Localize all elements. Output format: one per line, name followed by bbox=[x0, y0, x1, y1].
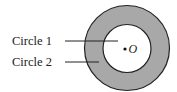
concentric-circles-diagram: Circle 1 Circle 2 O bbox=[0, 0, 177, 92]
center-point bbox=[123, 47, 126, 50]
circle-1-label: Circle 1 bbox=[12, 34, 52, 48]
center-label: O bbox=[129, 42, 138, 56]
inner-circle-1 bbox=[103, 25, 151, 73]
circle-2-label: Circle 2 bbox=[12, 55, 52, 69]
